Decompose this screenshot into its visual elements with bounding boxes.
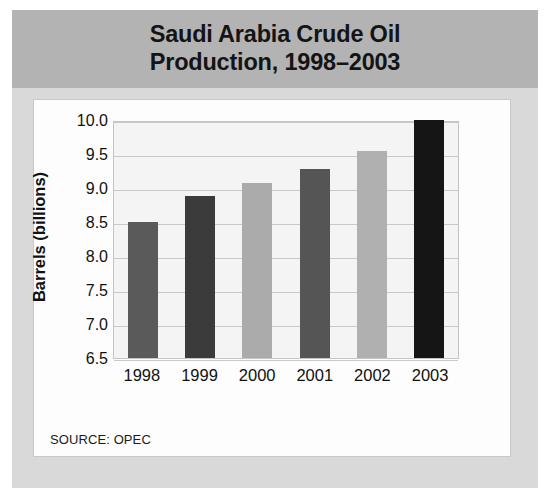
y-axis-tick-label: 7.5 xyxy=(58,282,108,300)
chart-figure: Saudi Arabia Crude Oil Production, 1998–… xyxy=(0,0,546,496)
x-axis-tick-label: 1999 xyxy=(171,366,227,385)
x-axis-tick-label: 1998 xyxy=(114,366,170,385)
y-axis-tick-label: 8.5 xyxy=(58,214,108,232)
chart-card: Barrels (billions) 10.09.59.08.58.07.57.… xyxy=(33,99,511,457)
plot-area xyxy=(113,121,459,359)
bar-1998 xyxy=(128,222,158,358)
y-axis-tick-labels: 10.09.59.08.58.07.57.06.5 xyxy=(58,100,108,458)
bar-1999 xyxy=(185,196,215,358)
y-axis-tick-label: 9.5 xyxy=(58,146,108,164)
bar-2003 xyxy=(414,120,444,358)
source-note: SOURCE: OPEC xyxy=(50,432,151,447)
bar-series xyxy=(114,122,458,358)
page-margin-bottom xyxy=(0,488,546,496)
bar-2002 xyxy=(357,151,387,358)
chart-title-banner: Saudi Arabia Crude Oil Production, 1998–… xyxy=(12,10,538,88)
x-axis-tick-label: 2003 xyxy=(402,366,458,385)
x-axis-tick-label: 2002 xyxy=(344,366,400,385)
x-axis-tick-labels: 199819992000200120022003 xyxy=(113,366,459,392)
gridline xyxy=(114,360,458,361)
y-axis-tick-label: 7.0 xyxy=(58,316,108,334)
y-axis-tick-label: 10.0 xyxy=(58,112,108,130)
page-margin-top xyxy=(0,0,546,10)
y-axis-tick-label: 8.0 xyxy=(58,248,108,266)
x-axis-tick-label: 2000 xyxy=(229,366,285,385)
page-margin-right xyxy=(538,0,546,496)
y-axis-tick-label: 6.5 xyxy=(58,350,108,368)
y-axis-title: Barrels (billions) xyxy=(30,152,52,322)
chart-title-line-2: Production, 1998–2003 xyxy=(150,49,401,77)
chart-title-line-1: Saudi Arabia Crude Oil xyxy=(150,21,401,49)
bar-2000 xyxy=(242,183,272,358)
bar-2001 xyxy=(300,169,330,358)
page-margin-left xyxy=(0,0,12,496)
x-axis-tick-label: 2001 xyxy=(287,366,343,385)
y-axis-tick-label: 9.0 xyxy=(58,180,108,198)
